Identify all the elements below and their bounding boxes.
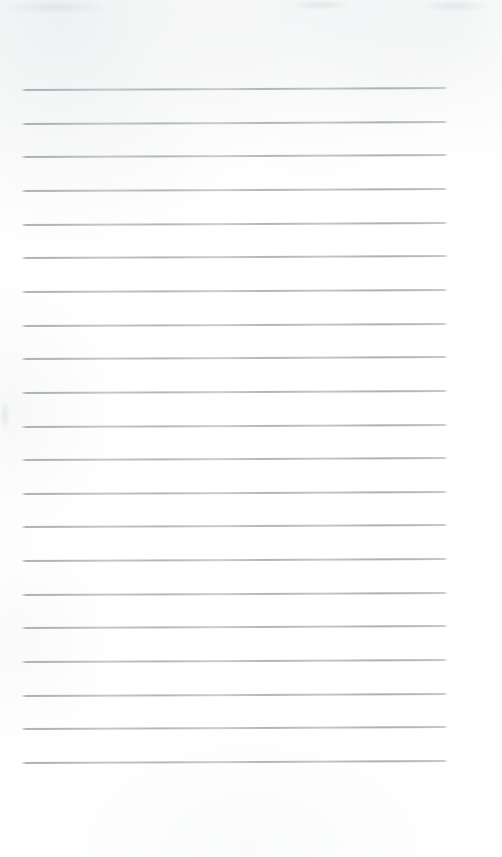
rule-line-ink [21,289,448,293]
rule-line [21,659,448,663]
rule-line [21,323,448,327]
rule-line-ink [21,390,448,394]
rule-line [21,222,448,226]
rule-line-ink [21,424,448,428]
rule-line [21,592,448,596]
rule-line-ink [21,726,448,730]
rule-line-ink [21,356,448,360]
rule-line-ink [21,491,448,495]
rule-line [21,558,448,562]
rule-line [21,87,448,91]
rule-line [21,491,448,495]
rule-line-ink [21,222,448,226]
rule-line [21,390,448,394]
rule-line [21,760,448,764]
ruled-line-field [0,0,502,857]
rule-line [21,154,448,158]
rule-line [21,424,448,428]
rule-line-ink [21,457,448,461]
rule-line-ink [21,625,448,629]
rule-line [21,726,448,730]
scanned-page [0,0,502,857]
rule-line [21,356,448,360]
rule-line-ink [21,87,448,91]
rule-line [21,524,448,528]
rule-line-ink [21,188,448,192]
rule-line-ink [21,121,448,125]
rule-line-ink [21,592,448,596]
rule-line [21,457,448,461]
rule-line-ink [21,693,448,697]
rule-line-ink [21,524,448,528]
rule-line [21,188,448,192]
rule-line-ink [21,558,448,562]
rule-line [21,121,448,125]
rule-line-ink [21,154,448,158]
rule-line [21,289,448,293]
rule-line-ink [21,659,448,663]
rule-line [21,625,448,629]
rule-line [21,693,448,697]
rule-line [21,255,448,259]
rule-line-ink [21,255,448,259]
rule-line-ink [21,760,448,764]
rule-line-ink [21,323,448,327]
